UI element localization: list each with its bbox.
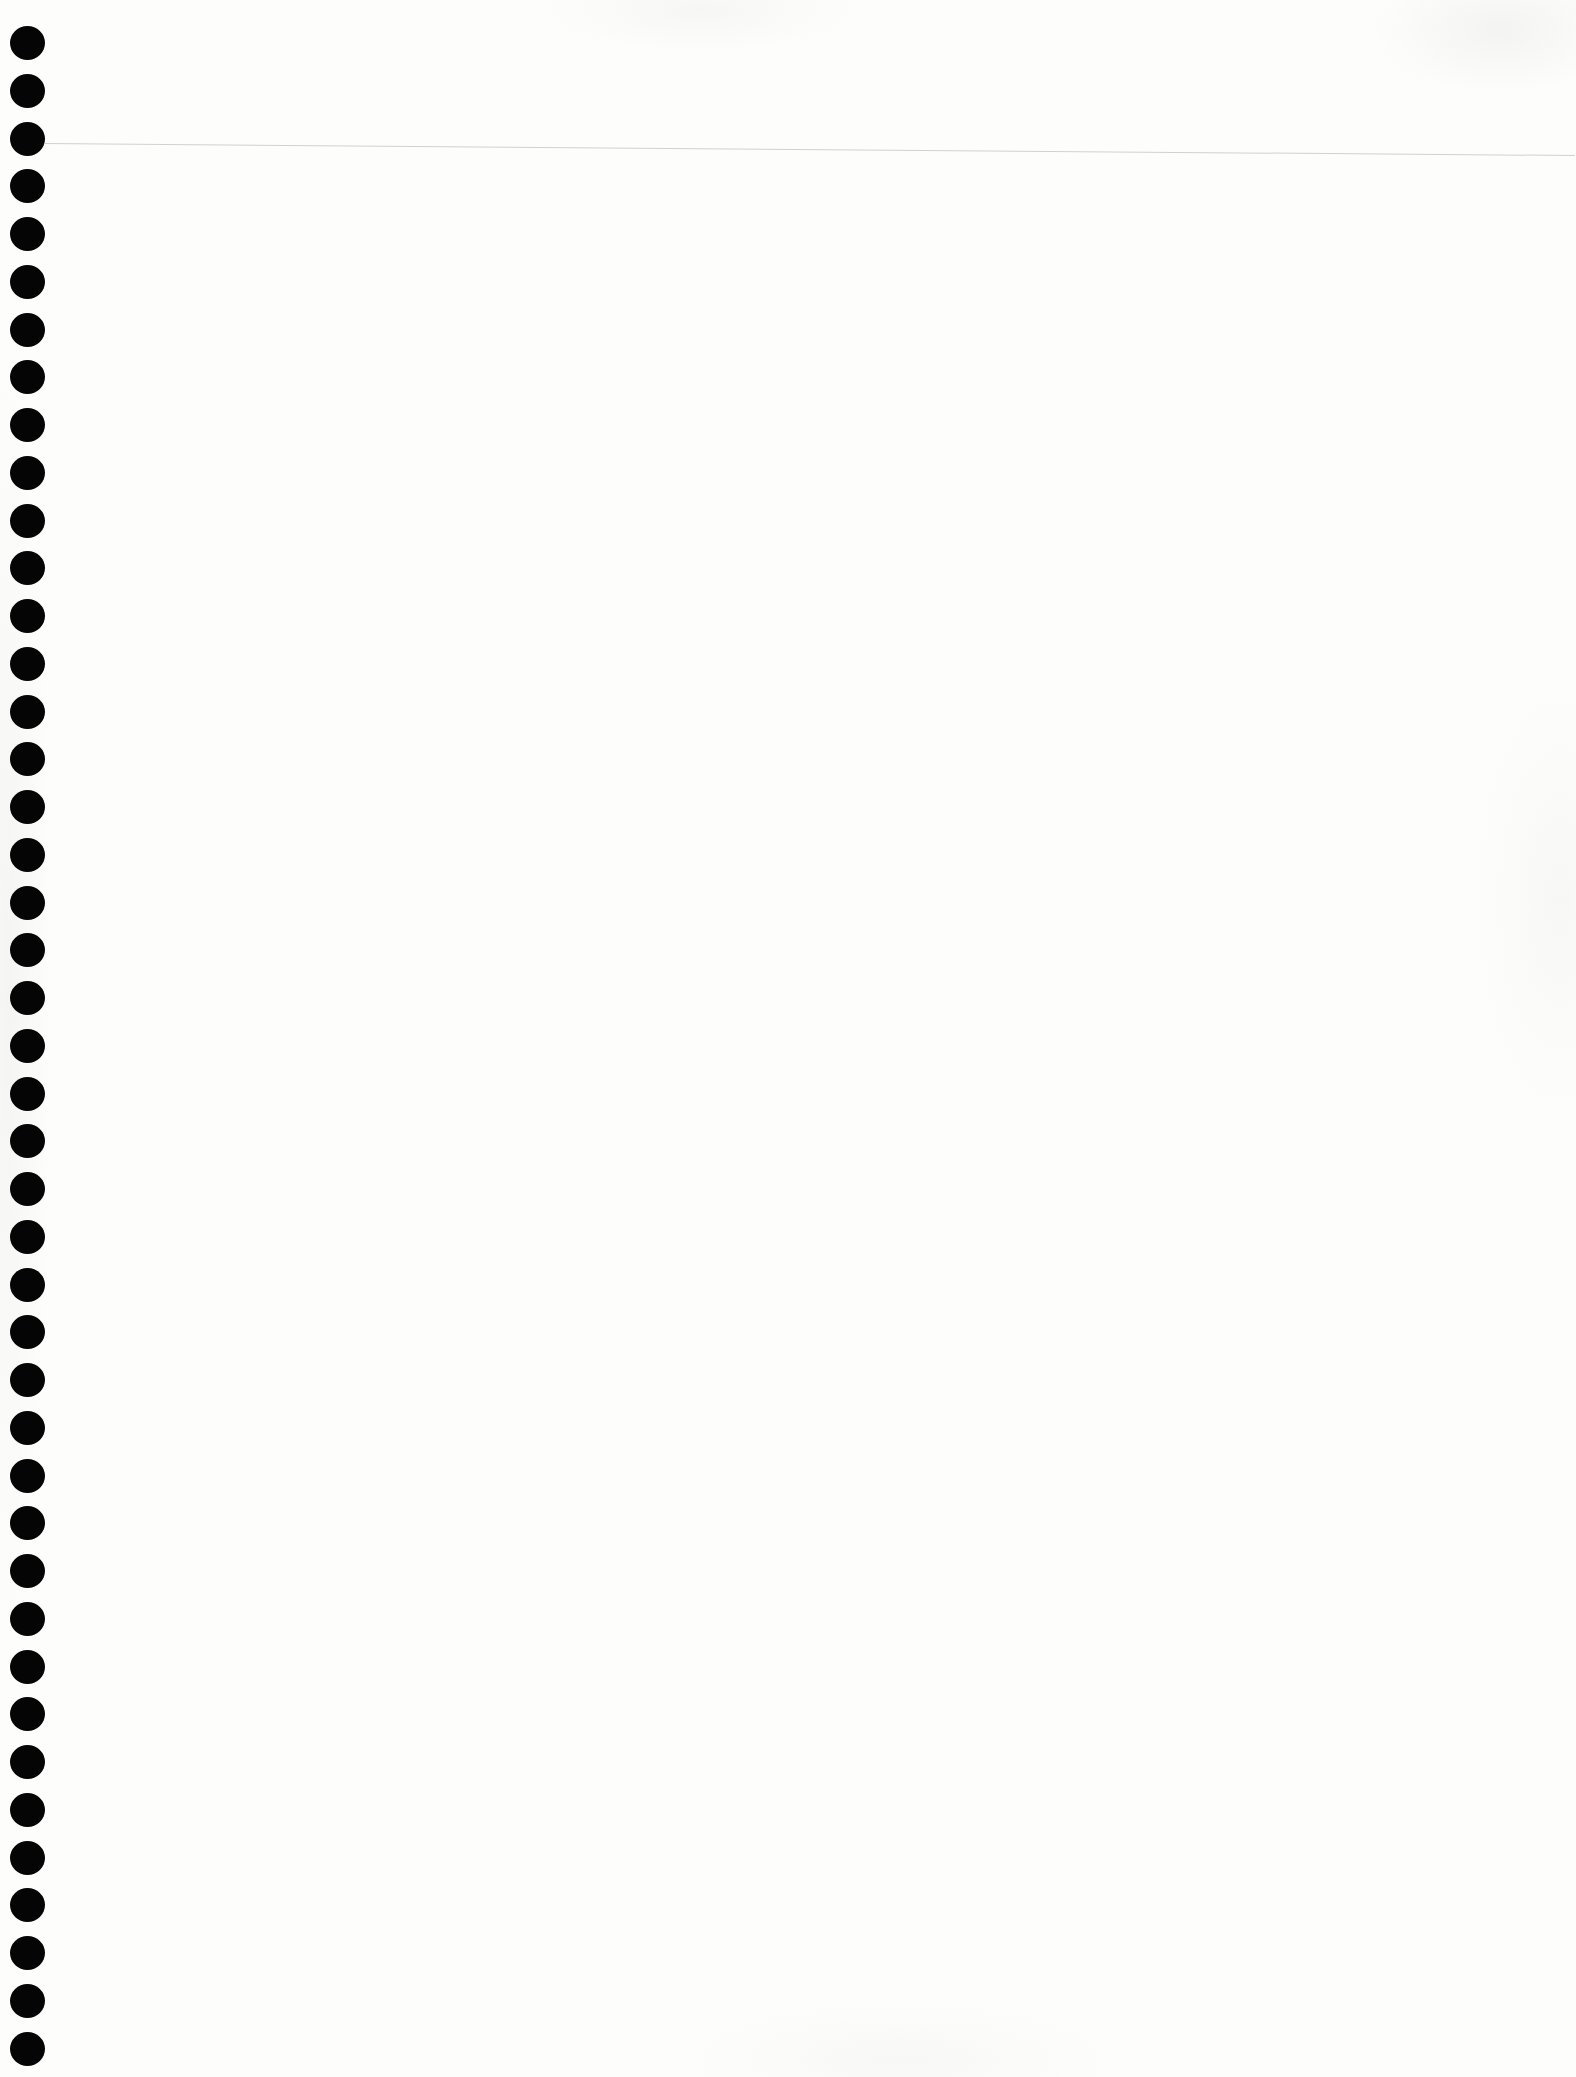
punch-hole-icon xyxy=(10,1268,45,1302)
punch-hole-icon xyxy=(10,1459,45,1493)
punch-hole-icon xyxy=(10,217,45,251)
header-rule-line xyxy=(45,143,1575,156)
punch-hole-icon xyxy=(10,1888,45,1922)
punch-hole-icon xyxy=(10,647,45,681)
punch-hole-icon xyxy=(10,1554,45,1588)
punch-hole-icon xyxy=(10,886,45,920)
punch-hole-icon xyxy=(10,1172,45,1206)
punch-hole-icon xyxy=(10,408,45,442)
punch-hole-icon xyxy=(10,2032,45,2066)
punch-hole-icon xyxy=(10,742,45,776)
punch-hole-column xyxy=(10,26,46,2077)
punch-hole-icon xyxy=(10,265,45,299)
punch-hole-icon xyxy=(10,1220,45,1254)
punch-hole-icon xyxy=(10,313,45,347)
punch-hole-icon xyxy=(10,504,45,538)
punch-hole-icon xyxy=(10,74,45,108)
punch-hole-icon xyxy=(10,1936,45,1970)
punch-hole-icon xyxy=(10,1029,45,1063)
punch-hole-icon xyxy=(10,1411,45,1445)
punch-hole-icon xyxy=(10,1984,45,2018)
punch-hole-icon xyxy=(10,551,45,585)
punch-hole-icon xyxy=(10,933,45,967)
punch-hole-icon xyxy=(10,1315,45,1349)
punch-hole-icon xyxy=(10,1650,45,1684)
punch-hole-icon xyxy=(10,1697,45,1731)
punch-hole-icon xyxy=(10,790,45,824)
punch-hole-icon xyxy=(10,695,45,729)
punch-hole-icon xyxy=(10,1077,45,1111)
punch-hole-icon xyxy=(10,1841,45,1875)
punch-hole-icon xyxy=(10,1124,45,1158)
punch-hole-icon xyxy=(10,1506,45,1540)
punch-hole-icon xyxy=(10,1602,45,1636)
punch-hole-icon xyxy=(10,169,45,203)
punch-hole-icon xyxy=(10,838,45,872)
punch-hole-icon xyxy=(10,360,45,394)
punch-hole-icon xyxy=(10,981,45,1015)
punch-hole-icon xyxy=(10,1363,45,1397)
punch-hole-icon xyxy=(10,599,45,633)
punch-hole-icon xyxy=(10,26,45,60)
notebook-page xyxy=(0,0,1576,2077)
punch-hole-icon xyxy=(10,122,45,156)
punch-hole-icon xyxy=(10,456,45,490)
punch-hole-icon xyxy=(10,1745,45,1779)
punch-hole-icon xyxy=(10,1793,45,1827)
